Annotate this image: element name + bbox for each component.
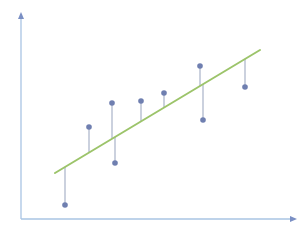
data-point	[197, 63, 203, 69]
data-point	[161, 90, 167, 96]
y-axis-arrow-icon	[18, 12, 24, 19]
data-point	[62, 202, 68, 208]
data-point	[138, 98, 144, 104]
data-point	[200, 117, 206, 123]
data-point	[242, 84, 248, 90]
data-point	[112, 160, 118, 166]
data-point	[86, 124, 92, 130]
residual-lines	[65, 59, 245, 205]
regression-chart	[0, 0, 308, 231]
data-points	[62, 63, 248, 208]
axes	[18, 12, 297, 222]
x-axis-arrow-icon	[290, 216, 297, 222]
regression-line	[55, 50, 260, 173]
data-point	[109, 100, 115, 106]
fit-line	[55, 50, 260, 173]
